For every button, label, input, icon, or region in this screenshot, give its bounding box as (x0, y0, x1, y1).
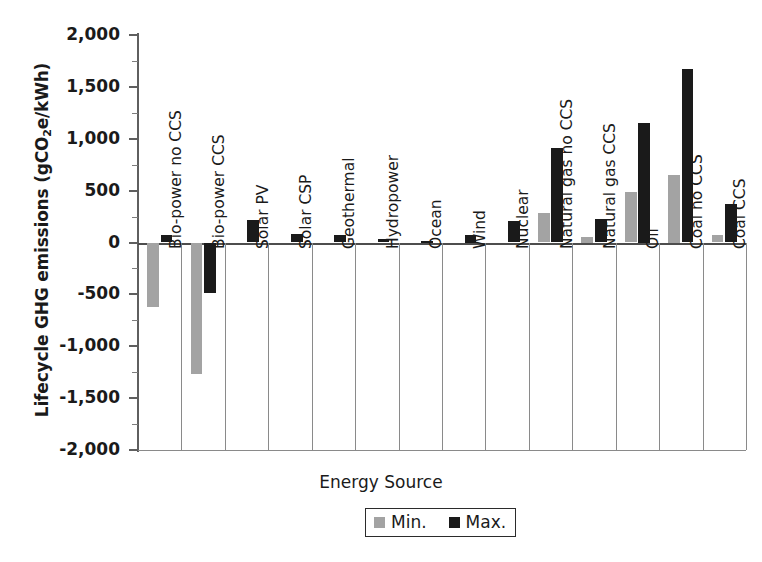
category-tick (659, 443, 660, 450)
y-axis-title-tail: e/kWh) (32, 63, 52, 129)
legend-item-max: Max. (449, 512, 507, 532)
category-label: Bio-power no CCS (167, 110, 185, 249)
category-tick (616, 443, 617, 450)
plot-area: Bio-power no CCSBio-power CCSSolar PVSol… (138, 35, 746, 450)
category-separator (442, 243, 443, 451)
y-tick-label: -2,000 (28, 439, 120, 459)
category-tick (485, 443, 486, 450)
legend-label-min: Min. (391, 512, 427, 532)
y-tick-mark (129, 34, 138, 36)
y-tick-mark (129, 86, 138, 88)
category-separator (312, 243, 313, 451)
category-tick (442, 443, 443, 450)
category-tick (399, 443, 400, 450)
category-label: Natural gas no CCS (558, 98, 576, 248)
category-label: Solar CSP (297, 174, 315, 248)
y-tick-mark (129, 293, 138, 295)
bar-min (538, 213, 550, 242)
bar-min (712, 235, 724, 242)
legend-item-min: Min. (374, 512, 427, 532)
x-axis-title: Energy Source (0, 472, 762, 492)
y-tick-mark (129, 242, 138, 244)
legend-swatch-max-icon (449, 517, 460, 528)
category-label: Bio-power CCS (210, 134, 228, 249)
bar-max (638, 123, 650, 242)
category-separator (181, 243, 182, 451)
bar-min (581, 237, 593, 242)
category-label: Coal no CCS (688, 154, 706, 249)
y-tick-label: -1,000 (28, 335, 120, 355)
category-label: Coal CCS (731, 178, 749, 249)
y-tick-mark (129, 397, 138, 399)
category-separator (529, 243, 530, 451)
category-tick (529, 443, 530, 450)
y-tick-label: -1,500 (28, 387, 120, 407)
category-separator (616, 243, 617, 451)
category-separator (659, 243, 660, 451)
category-tick (703, 443, 704, 450)
category-tick (572, 443, 573, 450)
y-tick-label: 0 (28, 232, 120, 252)
bar-min (625, 192, 637, 243)
bar-min (147, 243, 159, 307)
category-separator (703, 243, 704, 451)
y-tick-mark (129, 190, 138, 192)
category-tick (746, 443, 747, 450)
y-tick-label: 1,500 (28, 76, 120, 96)
category-separator (225, 243, 226, 451)
category-separator (746, 243, 747, 451)
chart-legend: Min. Max. (365, 508, 516, 537)
x-axis-baseline (138, 450, 746, 451)
y-tick-mark (129, 345, 138, 347)
category-label: Solar PV (254, 184, 272, 248)
bar-min (191, 243, 203, 375)
y-tick-mark (129, 138, 138, 140)
bar-min (668, 175, 680, 242)
y-tick-label: -500 (28, 283, 120, 303)
y-tick-label: 500 (28, 180, 120, 200)
category-separator (399, 243, 400, 451)
legend-label-max: Max. (466, 512, 507, 532)
category-separator (572, 243, 573, 451)
category-label: Oil (644, 228, 662, 249)
category-separator (485, 243, 486, 451)
category-label: Nuclear (514, 189, 532, 249)
category-label: Geothermal (340, 157, 358, 248)
category-label: Ocean (427, 199, 445, 249)
category-tick (181, 443, 182, 450)
category-tick (225, 443, 226, 450)
chart-figure: Lifecycle GHG emissions (gCO2e/kWh) 2,00… (0, 0, 762, 562)
category-tick (312, 443, 313, 450)
category-tick (355, 443, 356, 450)
legend-swatch-min-icon (374, 517, 385, 528)
y-tick-label: 1,000 (28, 128, 120, 148)
category-separator (268, 243, 269, 451)
bar-max (204, 243, 216, 294)
y-tick-label: 2,000 (28, 24, 120, 44)
category-separator (355, 243, 356, 451)
category-label: Wind (471, 210, 489, 249)
category-tick (268, 443, 269, 450)
category-label: Hydropower (384, 154, 402, 248)
category-label: Natural gas CCS (601, 123, 619, 249)
y-tick-mark (129, 449, 138, 451)
